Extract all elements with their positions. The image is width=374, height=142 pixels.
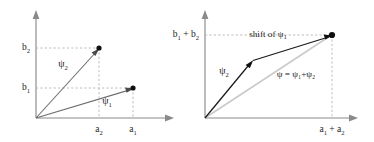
right-panel-xlabel-a1-plus-a2: a1 + a2 <box>319 124 344 135</box>
vector-addition-diagram: b2 b1 a2 a1 ψ2 ψ1 <box>0 0 374 142</box>
right-panel-annotation-psi2: ψ2 <box>219 65 229 77</box>
left-panel-x-axis <box>36 115 174 122</box>
right-panel-vector-psi2 <box>205 60 253 118</box>
right-panel-sum-point <box>329 32 335 38</box>
left-panel-ylabel-b1: b1 <box>22 82 30 93</box>
left-panel-ylabel-b2: b2 <box>22 42 30 53</box>
left-panel-annotation-psi1: ψ1 <box>102 95 112 107</box>
right-panel-ylabel-b1-plus-b2: b1 + b2 <box>173 29 199 40</box>
right-panel-annotation-psi-sum: ψ = ψ₁+ψ₂ <box>277 69 316 79</box>
left-panel-vector-psi2 <box>36 45 102 118</box>
right-panel: b1 + b2 a1 + a2 ψ2 shift of ψ1 ψ = ψ₁+ψ₂ <box>173 10 358 135</box>
right-panel-annotation-shift-of-psi1: shift of ψ1 <box>249 29 287 40</box>
left-panel-xlabel-a2: a2 <box>95 124 103 135</box>
right-panel-y-axis <box>202 10 209 118</box>
figure-container: b2 b1 a2 a1 ψ2 ψ1 <box>0 0 374 142</box>
left-panel-xlabel-a1: a1 <box>129 124 137 135</box>
left-panel: b2 b1 a2 a1 ψ2 ψ1 <box>22 10 174 135</box>
left-panel-y-axis <box>33 10 40 118</box>
right-panel-x-axis <box>205 115 358 122</box>
left-panel-annotation-psi2: ψ2 <box>58 58 68 70</box>
